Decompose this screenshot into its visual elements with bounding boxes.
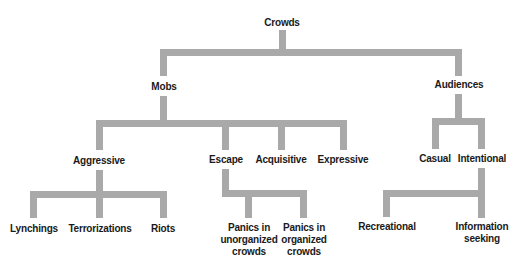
connector-escape-horizontal: [222, 190, 307, 197]
node-casual: Casual: [419, 153, 451, 165]
node-panics-unorganized: Panics in unorganized crowds: [220, 222, 277, 258]
node-recreational: Recreational: [358, 221, 416, 233]
node-information-seeking-line-2: seeking: [456, 233, 509, 245]
node-mobs: Mobs: [151, 81, 176, 93]
connector-audiences-drop: [455, 49, 462, 76]
node-panics-unorganized-line-3: crowds: [220, 246, 277, 258]
connector-terrorizations-drop: [96, 191, 103, 218]
node-panics-organized-line-3: crowds: [281, 246, 326, 258]
connector-riots-drop: [160, 191, 167, 218]
crowds-taxonomy-diagram: Crowds Mobs Audiences Aggressive Escape …: [0, 0, 518, 267]
connector-intentional-horizontal: [383, 190, 485, 197]
node-information-seeking-line-1: Information: [456, 221, 509, 233]
node-panics-organized-line-1: Panics in: [281, 222, 326, 234]
node-intentional: Intentional: [458, 153, 506, 165]
connector-intentional-drop: [478, 118, 485, 149]
connector-aggressive-drop: [96, 120, 103, 150]
connector-escape-drop: [222, 120, 229, 150]
node-information-seeking: Information seeking: [456, 221, 509, 245]
node-audiences: Audiences: [435, 79, 484, 91]
node-acquisitive: Acquisitive: [255, 154, 306, 166]
connector-panics-unorganized-drop: [245, 190, 252, 218]
node-panics-unorganized-line-1: Panics in: [220, 222, 277, 234]
node-lynchings: Lynchings: [10, 223, 58, 235]
node-aggressive: Aggressive: [73, 155, 125, 167]
node-riots: Riots: [151, 223, 175, 235]
connector-expressive-drop: [340, 120, 347, 150]
node-panics-organized: Panics in organized crowds: [281, 222, 326, 258]
node-crowds: Crowds: [264, 17, 299, 29]
connector-lynchings-drop: [30, 191, 37, 218]
connector-casual-drop: [432, 118, 439, 149]
connector-recreational-drop: [383, 190, 390, 217]
node-panics-organized-line-2: organized: [281, 234, 326, 246]
node-panics-unorganized-line-2: unorganized: [220, 234, 277, 246]
node-expressive: Expressive: [318, 154, 369, 166]
connector-acquisitive-drop: [278, 120, 285, 150]
connector-crowds-horizontal: [160, 49, 462, 56]
connector-mobs-drop: [160, 49, 167, 76]
node-escape: Escape: [209, 154, 243, 166]
connector-panics-organized-drop: [300, 190, 307, 218]
node-terrorizations: Terrorizations: [68, 223, 131, 235]
